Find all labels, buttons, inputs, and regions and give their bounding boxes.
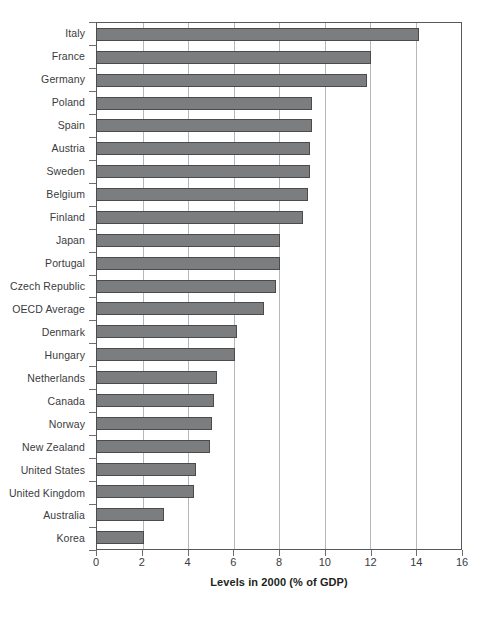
y-axis-label: OECD Average [0,297,92,320]
x-axis-tick-label: 6 [230,556,236,568]
y-axis-tick [89,91,96,92]
bar[interactable] [96,463,196,476]
y-axis-label-text: Korea [56,532,85,544]
y-axis-tick [89,343,96,344]
y-axis-tick [89,206,96,207]
y-axis-label: Denmark [0,320,92,343]
y-axis-tick [89,366,96,367]
x-axis-title: Levels in 2000 (% of GDP) [96,576,462,588]
y-axis-label-text: Austria [52,142,85,154]
y-axis-label-text: France [52,50,85,62]
y-axis-tick [89,275,96,276]
bar-row [97,526,461,549]
y-axis-label-text: Poland [52,96,85,108]
bar-row [97,229,461,252]
bar[interactable] [96,394,214,407]
y-axis-tick [89,114,96,115]
y-axis-tick [89,68,96,69]
y-axis-tick [89,229,96,230]
bar[interactable] [96,325,237,338]
y-axis-label: Sweden [0,160,92,183]
bar[interactable] [96,531,144,544]
bar-row [97,206,461,229]
bar[interactable] [96,188,308,201]
y-axis-label: Norway [0,412,92,435]
bar-row [97,69,461,92]
y-axis-label-text: OECD Average [12,303,85,315]
figure: ItalyFranceGermanyPolandSpainAustriaSwed… [0,0,485,621]
y-axis-label: France [0,45,92,68]
y-axis-label-text: Finland [50,211,85,223]
y-axis-label: New Zealand [0,435,92,458]
bar[interactable] [96,371,217,384]
y-axis-label: Belgium [0,183,92,206]
y-axis-label: United States [0,458,92,481]
y-axis-label: Spain [0,114,92,137]
y-axis-label: Italy [0,22,92,45]
bar[interactable] [96,257,280,270]
bar[interactable] [96,348,235,361]
y-axis-label-text: Portugal [45,257,85,269]
plot-area [96,22,462,550]
bar-rows [97,23,461,549]
bar[interactable] [96,74,367,87]
y-axis-label-text: Italy [65,27,85,39]
bar-row [97,46,461,69]
y-axis-tick [89,252,96,253]
x-axis-tick-label: 14 [410,556,422,568]
y-axis-label-text: Denmark [42,326,85,338]
bar-row [97,137,461,160]
y-axis-label-text: Canada [48,395,85,407]
x-axis-tick-label: 12 [364,556,376,568]
y-axis-tick [89,320,96,321]
bar[interactable] [96,485,194,498]
x-axis-tick-label: 0 [93,556,99,568]
bar-row [97,115,461,138]
y-axis-label-text: New Zealand [22,441,85,453]
bar[interactable] [96,211,303,224]
y-axis-label-text: Germany [41,73,85,85]
x-axis-tick-label: 16 [456,556,468,568]
bar[interactable] [96,28,419,41]
x-axis-tick-label: 10 [319,556,331,568]
bar[interactable] [96,508,164,521]
y-axis-label: Canada [0,389,92,412]
y-axis-tick [89,160,96,161]
y-axis-tick [89,22,96,23]
bar-row [97,458,461,481]
y-axis-label: Finland [0,206,92,229]
y-axis-tick [89,481,96,482]
y-axis-label: Korea [0,527,92,550]
y-axis-label: United Kingdom [0,481,92,504]
bar[interactable] [96,234,280,247]
y-axis-tick [89,297,96,298]
bar-row [97,183,461,206]
bar-row [97,389,461,412]
y-axis-tick [89,137,96,138]
y-axis-label: Austria [0,137,92,160]
y-axis-label: Netherlands [0,366,92,389]
bar-row [97,160,461,183]
bar[interactable] [96,280,276,293]
bar-row [97,275,461,298]
y-axis-tick [89,45,96,46]
y-axis-tick [89,458,96,459]
bar[interactable] [96,97,312,110]
y-axis-category-labels: ItalyFranceGermanyPolandSpainAustriaSwed… [0,22,92,550]
bar[interactable] [96,119,312,132]
y-axis-tick [89,183,96,184]
bar-row [97,298,461,321]
y-axis-label-text: Hungary [45,349,85,361]
bar[interactable] [96,302,264,315]
bar-row [97,252,461,275]
y-axis-label-text: Sweden [46,165,85,177]
y-axis-label-text: Japan [56,234,85,246]
y-axis-label-text: United Kingdom [9,487,85,499]
bar[interactable] [96,165,310,178]
y-axis-label-text: Belgium [46,188,85,200]
bar[interactable] [96,51,371,64]
bar-row [97,503,461,526]
bar[interactable] [96,417,212,430]
bar[interactable] [96,142,310,155]
bar[interactable] [96,440,210,453]
